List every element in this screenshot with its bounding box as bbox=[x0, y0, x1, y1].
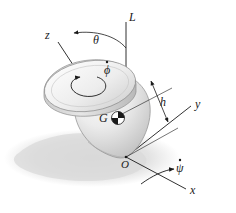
y-axis-label: y bbox=[194, 97, 201, 111]
spin-rate-dot bbox=[106, 61, 108, 63]
height-dimension: h bbox=[151, 81, 168, 122]
precession-rate-dot bbox=[179, 159, 181, 161]
spin-rate-label: ϕ bbox=[104, 63, 110, 77]
precession-rate-label: ψ bbox=[176, 161, 184, 175]
theta-angle-arc: θ bbox=[74, 32, 126, 48]
height-label: h bbox=[160, 95, 166, 109]
cg-label: G bbox=[99, 111, 108, 125]
vertical-axis-label: L bbox=[128, 10, 136, 24]
origin-point: O bbox=[121, 156, 129, 170]
theta-label: θ bbox=[93, 33, 99, 47]
z-axis-label: z bbox=[44, 28, 50, 42]
origin-label: O bbox=[121, 158, 129, 170]
x-axis-label: x bbox=[189, 183, 196, 197]
spinning-top-figure: x y L θ z bbox=[0, 0, 236, 213]
